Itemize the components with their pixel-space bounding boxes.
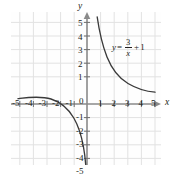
x-tick-label-2: 2: [112, 99, 117, 108]
x-tick-label-5: 5: [151, 99, 156, 108]
y-axis-letter: y: [78, 2, 82, 12]
equation-plus-sign: +: [134, 43, 139, 52]
equation-numerator: 3: [126, 38, 130, 47]
y-tick-label-5: 5: [78, 19, 83, 28]
x-tick-label--5: -5: [12, 99, 20, 108]
y-tick-label--4: -4: [76, 154, 84, 163]
equation-lhs: y: [112, 43, 116, 52]
y-tick-label--3: -3: [76, 140, 84, 149]
y-tick-label--5: -5: [76, 167, 84, 176]
y-tick-label--1: -1: [76, 113, 84, 122]
x-tick-label--4: -4: [25, 99, 33, 108]
x-axis-letter: x: [165, 98, 169, 108]
labels-overlay: -5 -4 -3 -2 -1 0 1 2 3 4 5 5 4 3 2 1 -1 …: [0, 0, 173, 177]
x-tick-label-3: 3: [125, 99, 130, 108]
x-tick-label-1: 1: [98, 99, 103, 108]
equation-equals-sign: =: [117, 43, 122, 52]
equation-constant: 1: [140, 43, 145, 52]
x-tick-label--2: -2: [52, 99, 60, 108]
graph-figure: -5 -4 -3 -2 -1 0 1 2 3 4 5 5 4 3 2 1 -1 …: [0, 0, 173, 177]
x-tick-label--1: -1: [66, 99, 74, 108]
y-tick-label--2: -2: [76, 127, 84, 136]
equation-denominator: x: [126, 48, 130, 57]
y-tick-label-3: 3: [78, 46, 83, 55]
y-tick-label-4: 4: [78, 33, 83, 42]
y-tick-label-1: 1: [78, 73, 83, 82]
equation-fraction: 3 x: [125, 38, 132, 57]
origin-label: 0: [79, 97, 84, 106]
x-tick-label--3: -3: [39, 99, 47, 108]
y-tick-label-2: 2: [78, 60, 83, 69]
equation-label: y = 3 x + 1: [112, 38, 145, 57]
x-tick-label-4: 4: [139, 99, 144, 108]
